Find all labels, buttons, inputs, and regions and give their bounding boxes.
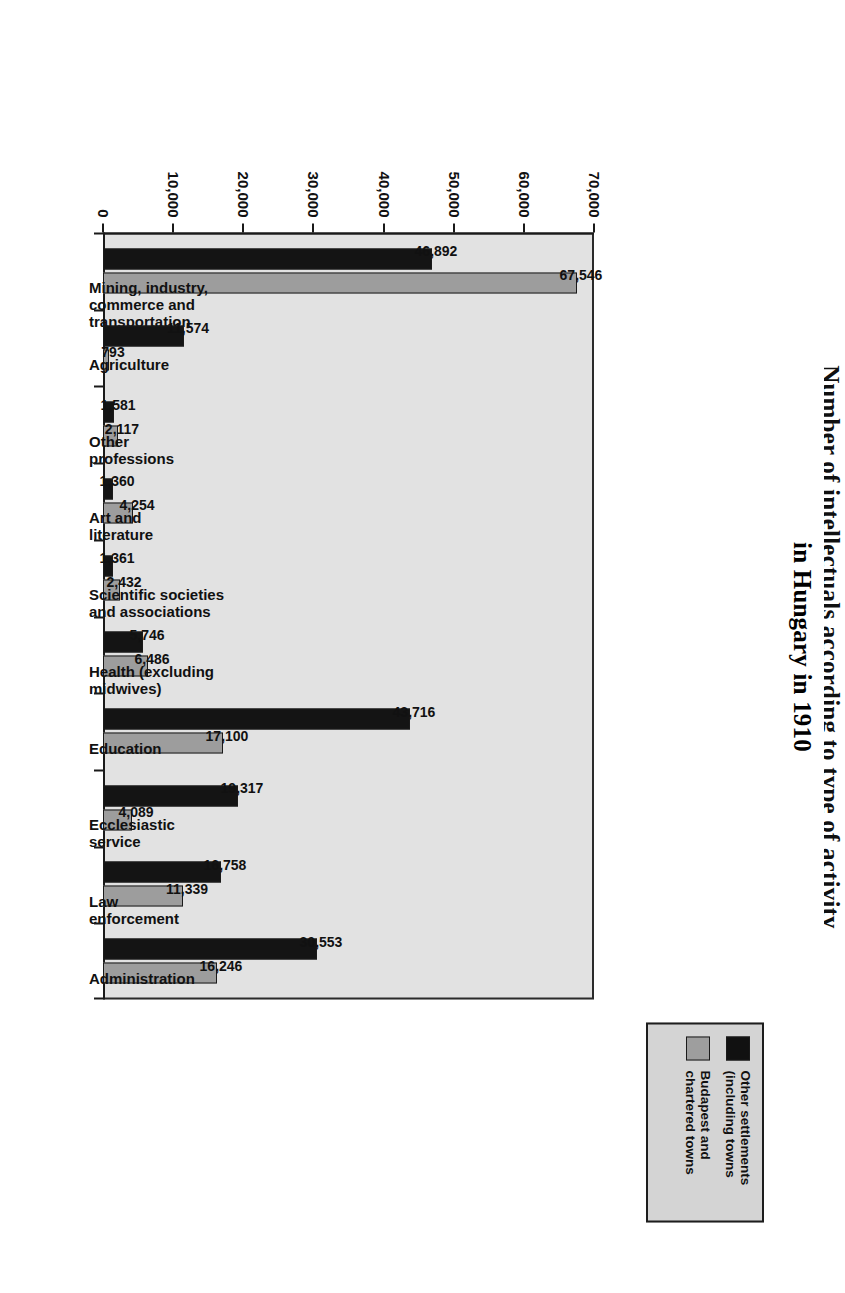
chart-legend: Other settlements (including townsBudape… — [646, 1022, 764, 1222]
bar-value-label: 67,546 — [559, 266, 602, 282]
legend-item-label: Other settlements (including towns — [723, 1070, 753, 1185]
bar-value-label: 19,317 — [221, 779, 264, 795]
bar: 5,746 — [103, 631, 143, 652]
category-label: Education — [89, 739, 329, 756]
bar-value-label: 1,581 — [101, 396, 136, 412]
value-axis-tick-label: 30,000 — [305, 171, 322, 217]
category-axis-tick — [94, 846, 103, 848]
legend-item-label: Budapest and chartered towns — [683, 1070, 713, 1174]
value-axis-tick: 20,000 — [242, 223, 244, 232]
bar: 16,758 — [103, 861, 221, 882]
category-label: Scientific societies and associations — [89, 585, 329, 619]
category-label: Other professions — [89, 432, 329, 466]
bar: 1,361 — [103, 555, 113, 576]
legend-swatch-dark — [726, 1036, 750, 1060]
category-label: Health (excluding midwives) — [89, 662, 329, 696]
bar-value-label: 46,892 — [414, 242, 457, 258]
category-label: Law enforcement — [89, 892, 329, 926]
value-axis-line — [103, 232, 594, 234]
category-axis-tick — [94, 385, 103, 387]
category-axis-tick — [94, 232, 103, 234]
chart-title-line-2: in Hungary in 1910 — [787, 0, 818, 1293]
category-label: Art and literature — [89, 508, 329, 542]
value-axis-tick-label: 20,000 — [235, 171, 252, 217]
value-axis-tick-label: 50,000 — [445, 171, 462, 217]
bar-value-label: 1,360 — [99, 472, 134, 488]
legend-item: Budapest and chartered towns — [683, 1036, 713, 1210]
bar-value-label: 16,758 — [203, 856, 246, 872]
bar-value-label: 43,716 — [392, 703, 435, 719]
value-axis-tick-label: 40,000 — [375, 171, 392, 217]
category-axis-tick — [94, 616, 103, 618]
bar-value-label: 30,553 — [300, 933, 343, 949]
value-axis-tick: 40,000 — [383, 223, 385, 232]
bar: 43,716 — [103, 708, 410, 729]
value-axis-tick: 0 — [102, 223, 104, 232]
category-axis-tick — [94, 309, 103, 311]
bar: 1,581 — [103, 401, 114, 422]
value-axis-tick-label: 70,000 — [586, 171, 603, 217]
category-axis-tick — [94, 997, 103, 999]
category-label: Agriculture — [89, 355, 329, 372]
category-axis-tick — [94, 539, 103, 541]
bar: 46,892 — [103, 248, 432, 269]
bar: 1,360 — [103, 478, 113, 499]
chart-title-line-1: Number of intellectuals according to typ… — [824, 0, 845, 1293]
category-axis-tick — [94, 692, 103, 694]
value-axis-tick: 30,000 — [312, 223, 314, 232]
value-axis-tick-label: 10,000 — [165, 171, 182, 217]
legend-item: Other settlements (including towns — [723, 1036, 753, 1210]
category-label: Administration — [89, 969, 329, 986]
bar: 30,553 — [103, 938, 317, 959]
value-axis-tick: 60,000 — [523, 223, 525, 232]
category-axis-tick — [94, 922, 103, 924]
plot-wrapper: 010,00020,00030,00040,00050,00060,00070,… — [103, 232, 594, 999]
value-axis-tick-label: 0 — [95, 209, 112, 217]
category-axis-tick — [94, 769, 103, 771]
legend-swatch-light — [686, 1036, 710, 1060]
bar: 11,574 — [103, 325, 184, 346]
bar-value-label: 5,746 — [130, 626, 165, 642]
bar-value-label: 1,361 — [99, 549, 134, 565]
category-axis-tick — [94, 462, 103, 464]
bar-value-label: 11,574 — [167, 319, 209, 335]
value-axis-tick-label: 60,000 — [515, 171, 532, 217]
value-axis-tick: 70,000 — [593, 223, 595, 232]
category-label: Ecclesiastic service — [89, 815, 329, 849]
value-axis-tick: 50,000 — [453, 223, 455, 232]
value-axis-tick: 10,000 — [172, 223, 174, 232]
